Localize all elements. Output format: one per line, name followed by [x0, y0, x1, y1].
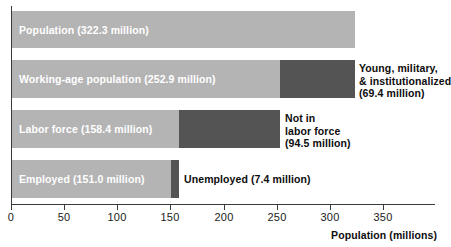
x-tick-350: [383, 205, 384, 210]
bar-working-age-label: Working-age population (252.9 million): [19, 73, 216, 85]
callout-unemployed: Unemployed (7.4 million): [184, 173, 311, 186]
x-tick-50: [64, 205, 65, 210]
bar-labor-force-segment-not-in-labor-force: [179, 110, 280, 148]
x-axis-title: Population (millions): [331, 229, 437, 241]
callout-not-in-labor-force-line2: labor force: [285, 125, 351, 138]
callout-young-military-institutionalized: Young, military, & institutionalized (69…: [359, 62, 451, 100]
x-tick-100: [117, 205, 118, 210]
callout-not-in-labor-force-line1: Not in: [285, 112, 351, 125]
x-tick-label-300: 300: [321, 211, 340, 223]
x-tick-label-250: 250: [268, 211, 287, 223]
bar-population-label: Population (322.3 million): [19, 24, 149, 36]
callout-young-military-line2: & institutionalized: [359, 75, 451, 88]
callout-young-military-line1: Young, military,: [359, 62, 451, 75]
x-tick-250: [277, 205, 278, 210]
callout-unemployed-line1: Unemployed (7.4 million): [184, 173, 311, 186]
x-tick-label-50: 50: [58, 211, 71, 223]
bar-working-age-segment-young-military-institutionalized: [280, 60, 355, 98]
x-tick-label-100: 100: [108, 211, 127, 223]
x-tick-0: [11, 205, 12, 210]
x-axis-line: [11, 204, 435, 205]
x-tick-label-0: 0: [8, 211, 14, 223]
bar-labor-force-label: Labor force (158.4 million): [19, 123, 152, 135]
y-axis-line: [11, 6, 12, 205]
callout-young-military-line3: (69.4 million): [359, 87, 451, 100]
x-tick-label-200: 200: [215, 211, 234, 223]
x-tick-label-150: 150: [161, 211, 180, 223]
x-tick-150: [170, 205, 171, 210]
x-tick-200: [224, 205, 225, 210]
x-tick-label-350: 350: [374, 211, 393, 223]
callout-not-in-labor-force-line3: (94.5 million): [285, 137, 351, 150]
callout-not-in-labor-force: Not in labor force (94.5 million): [285, 112, 351, 150]
bar-employed-segment-unemployed: [171, 160, 179, 198]
x-tick-300: [330, 205, 331, 210]
bar-employed-label: Employed (151.0 million): [19, 173, 145, 185]
